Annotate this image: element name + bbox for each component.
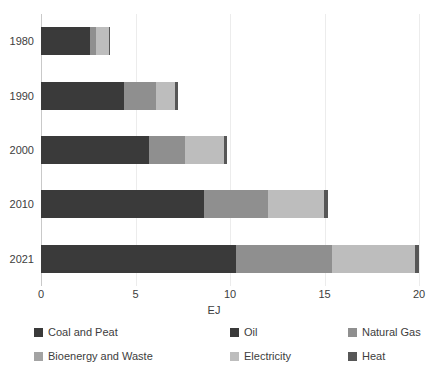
legend-item[interactable]: Coal and Peat (34, 326, 118, 338)
legend-swatch-icon (34, 352, 43, 361)
y-axis-tick-label-1980: 1980 (0, 35, 34, 47)
x-axis-title: EJ (0, 304, 428, 316)
bar-segment (41, 82, 124, 110)
x-axis-tick-label-5: 5 (121, 288, 151, 300)
bar-segment (268, 190, 325, 218)
bar-segment (415, 245, 419, 273)
y-axis-tick-label-2000: 2000 (0, 144, 34, 156)
y-axis-tick-label-2010: 2010 (0, 198, 34, 210)
bar-segment (185, 136, 225, 164)
legend-item[interactable]: Heat (348, 350, 385, 362)
legend-label: Heat (362, 350, 385, 362)
legend-swatch-icon (348, 328, 357, 337)
legend-item[interactable]: Natural Gas (348, 326, 421, 338)
bar-segment (41, 136, 149, 164)
bar-segment (175, 82, 178, 110)
bar-segment (96, 27, 109, 55)
legend-item[interactable]: Bioenergy and Waste (34, 350, 153, 362)
legend-swatch-icon (230, 352, 239, 361)
bar-row (41, 245, 419, 273)
x-axis-tick-label-15: 15 (310, 288, 340, 300)
legend-item[interactable]: Electricity (230, 350, 291, 362)
legend-swatch-icon (348, 352, 357, 361)
bar-segment (41, 245, 236, 273)
bar-segment (149, 136, 185, 164)
plot-area (41, 14, 419, 286)
gridline (419, 14, 420, 286)
bar-segment (204, 190, 268, 218)
bar-row (41, 190, 328, 218)
y-axis-tick-labels: 19801990200020102021 (0, 14, 36, 286)
legend-swatch-icon (34, 328, 43, 337)
legend-label: Coal and Peat (48, 326, 118, 338)
legend-label: Natural Gas (362, 326, 421, 338)
x-axis-tick-label-10: 10 (215, 288, 245, 300)
legend-label: Oil (244, 326, 257, 338)
bar-segment (324, 190, 328, 218)
bar-row (41, 136, 227, 164)
bar-segment (41, 27, 90, 55)
bar-segment (332, 245, 415, 273)
bar-chart: 19801990200020102021 05101520 EJ Coal an… (0, 0, 428, 376)
bar-segment (224, 136, 227, 164)
x-axis-tick-label-20: 20 (404, 288, 428, 300)
bar-row (41, 27, 110, 55)
x-axis-tick-label-0: 0 (26, 288, 56, 300)
bar-segment (109, 27, 110, 55)
legend-item[interactable]: Oil (230, 326, 257, 338)
legend-label: Electricity (244, 350, 291, 362)
bar-segment (156, 82, 175, 110)
bar-segment (41, 190, 204, 218)
legend-swatch-icon (230, 328, 239, 337)
legend-label: Bioenergy and Waste (48, 350, 153, 362)
bar-segment (124, 82, 156, 110)
bar-segment (236, 245, 332, 273)
bar-row (41, 82, 178, 110)
y-axis-tick-label-2021: 2021 (0, 253, 34, 265)
y-axis-tick-label-1990: 1990 (0, 90, 34, 102)
legend: Coal and PeatOilNatural GasBioenergy and… (34, 326, 428, 374)
x-axis-tick-labels: 05101520 (0, 288, 428, 304)
